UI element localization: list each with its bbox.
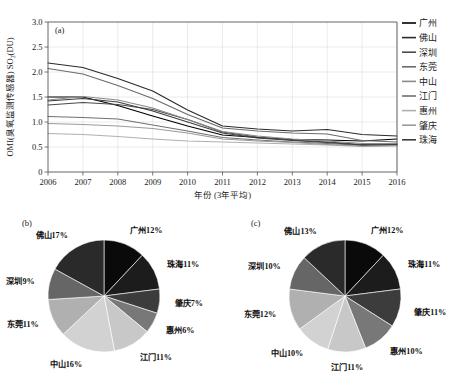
- y-axis-title: OMI(臭氧监测传感器) SO₂(DU): [5, 37, 15, 156]
- y-tick-label: 1.5: [32, 92, 43, 102]
- legend: 广州佛山深圳东莞中山江门惠州肇庆珠海: [402, 17, 437, 145]
- pie-label-2: 肇庆11%: [413, 307, 446, 317]
- x-tick-label: 2008: [109, 177, 126, 187]
- legend-label-8: 珠海: [419, 134, 437, 145]
- y-tick-label: 0: [38, 167, 42, 177]
- legend-label-6: 惠州: [419, 105, 437, 116]
- y-tick-label: 0.5: [32, 142, 43, 152]
- panel-tag-a: (a): [55, 25, 65, 35]
- line-chart-panel: 00.51.01.52.02.53.0200620072008200920102…: [0, 0, 458, 200]
- pie-chart-panel-c-svg: 广州12%珠海11%肇庆11%惠州10%江门11%中山10%东莞12%深圳10%…: [229, 200, 458, 389]
- legend-label-0: 广州: [419, 17, 437, 28]
- y-tick-label: 2.0: [32, 67, 43, 77]
- y-tick-label: 2.5: [32, 42, 43, 52]
- legend-label-5: 江门: [419, 90, 437, 101]
- x-tick-label: 2013: [284, 177, 301, 187]
- pie-label-8: 佛山17%: [35, 230, 68, 240]
- figure-root: 00.51.01.52.02.53.0200620072008200920102…: [0, 0, 458, 389]
- pie-chart-panel-b: 广州12%珠海11%肇庆7%惠州6%江门11%中山16%东莞11%深圳9%佛山1…: [0, 200, 229, 389]
- pie-label-0: 广州12%: [371, 225, 403, 235]
- x-tick-label: 2011: [214, 177, 231, 187]
- pie-label-2: 肇庆7%: [174, 298, 203, 308]
- pie-label-7: 深圳10%: [248, 261, 280, 271]
- pie-label-4: 江门11%: [140, 352, 172, 362]
- panel-tag-c: (c): [251, 218, 261, 228]
- y-tick-label: 3.0: [32, 17, 43, 27]
- x-tick-label: 2014: [319, 177, 337, 187]
- y-axis: 00.51.01.52.02.53.0: [32, 17, 48, 177]
- panel-tag-b: (b): [22, 218, 32, 228]
- x-axis-title: 年份 (3年平均): [194, 190, 251, 200]
- pie-label-5: 中山10%: [271, 348, 303, 358]
- pie-label-3: 惠州6%: [166, 325, 194, 335]
- legend-label-1: 佛山: [419, 32, 437, 43]
- pie-label-6: 东莞11%: [7, 319, 39, 329]
- pie-label-4: 江门11%: [331, 362, 363, 372]
- x-tick-label: 2015: [354, 177, 371, 187]
- pie-slices: [48, 240, 160, 352]
- x-axis: 2006200720082009201020112012201320142015…: [40, 172, 406, 187]
- legend-label-7: 肇庆: [419, 120, 437, 131]
- x-tick-label: 2007: [74, 177, 91, 187]
- pie-chart-panel-c: 广州12%珠海11%肇庆11%惠州10%江门11%中山10%东莞12%深圳10%…: [229, 200, 458, 389]
- x-tick-label: 2009: [144, 177, 161, 187]
- legend-label-2: 深圳: [419, 48, 437, 58]
- pie-label-6: 东莞12%: [244, 309, 276, 319]
- x-tick-label: 2012: [249, 177, 266, 187]
- line-chart-svg: 00.51.01.52.02.53.0200620072008200920102…: [0, 0, 458, 200]
- pie-chart-panel-b-svg: 广州12%珠海11%肇庆7%惠州6%江门11%中山16%东莞11%深圳9%佛山1…: [0, 200, 229, 389]
- pie-label-3: 惠州10%: [390, 346, 422, 356]
- pie-label-1: 珠海11%: [167, 259, 199, 269]
- x-tick-label: 2006: [40, 177, 57, 187]
- pie-label-0: 广州12%: [130, 225, 162, 235]
- y-tick-label: 1.0: [32, 117, 43, 127]
- pie-label-8: 佛山13%: [283, 226, 316, 236]
- pie-label-7: 深圳9%: [6, 276, 34, 286]
- legend-label-4: 中山: [419, 76, 437, 87]
- legend-label-3: 东莞: [419, 61, 437, 72]
- pie-label-1: 珠海11%: [408, 259, 440, 269]
- x-tick-label: 2010: [179, 177, 196, 187]
- pie-label-5: 中山16%: [50, 359, 82, 369]
- pie-slices: [289, 240, 401, 352]
- x-tick-label: 2016: [389, 177, 406, 187]
